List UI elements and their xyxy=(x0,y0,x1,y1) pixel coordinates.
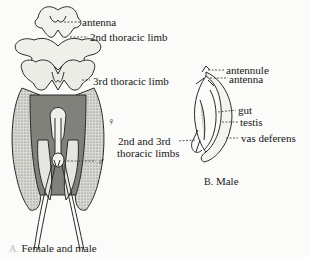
label-2nd-3rd-limbs-line2: thoracic limbs xyxy=(117,147,180,159)
label-gut: gut xyxy=(238,104,252,116)
panel-b-caption: B. Male xyxy=(204,175,239,188)
panel-a-caption-text: Female and male xyxy=(21,242,96,254)
panel-a-caption-prefix: A. xyxy=(9,243,19,254)
label-2nd-3rd-limbs-line1: 2nd and 3rd xyxy=(118,135,171,147)
panel-a-caption: A. Female and male xyxy=(9,242,97,255)
label-antenna: antenna xyxy=(82,16,116,28)
label-vas-deferens: vas deferens xyxy=(241,132,296,144)
label-3rd-thoracic-limb: 3rd thoracic limb xyxy=(93,75,169,87)
female-symbol: ♀ xyxy=(107,115,115,127)
label-testis: testis xyxy=(240,116,263,128)
panel-b-caption-text: Male xyxy=(216,175,239,187)
male-symbol: ♂ xyxy=(97,155,105,167)
label-male-antenna: antenna xyxy=(229,73,263,85)
male-copepod-drawing xyxy=(192,66,232,162)
panel-b-caption-prefix: B. xyxy=(204,176,213,187)
label-2nd-thoracic-limb: 2nd thoracic limb xyxy=(90,31,168,43)
